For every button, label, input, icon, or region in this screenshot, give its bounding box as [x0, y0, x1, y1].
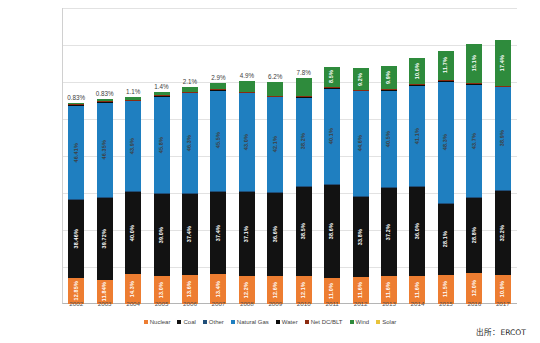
bar-stack[interactable]: 11.6%37.2%40.5%9.9% [381, 66, 397, 304]
bar-column[interactable]: 11.6%36.0%41.1%10.6% [403, 8, 431, 304]
bar-segment-coal[interactable]: 38.5% [296, 187, 312, 276]
bar-segment-other[interactable] [68, 199, 84, 200]
bar-segment-water[interactable] [267, 96, 283, 97]
bar-segment-coal[interactable]: 28.8% [466, 198, 482, 273]
bar-segment-natural-gas[interactable]: 45.5% [210, 90, 226, 191]
bar-stack[interactable]: 11.84%39.72%46.35%0.83% [97, 99, 113, 304]
bar-segment-coal[interactable]: 36.6% [267, 193, 283, 276]
bar-stack[interactable]: 11.0%38.6%40.1%8.5% [324, 67, 340, 304]
bar-segment-water[interactable] [466, 84, 482, 85]
bar-segment-coal[interactable]: 37.4% [210, 191, 226, 274]
bar-segment-water[interactable] [239, 92, 255, 93]
bar-segment-coal[interactable]: 36.0% [409, 187, 425, 276]
bar-segment-wind[interactable]: 0.83% [97, 99, 113, 101]
bar-column[interactable]: 11.6%37.2%40.5%9.9% [375, 8, 403, 304]
bar-segment-coal[interactable]: 37.4% [182, 194, 198, 275]
bar-segment-water[interactable] [296, 97, 312, 98]
bar-stack[interactable]: 11.5%28.1%48.3%11.7% [438, 51, 454, 304]
bar-segment-wind[interactable]: 2.1% [182, 87, 198, 92]
bar-column[interactable]: 11.6%33.8%44.6%9.2% [347, 8, 375, 304]
bar-segment-water[interactable] [97, 102, 113, 103]
bar-segment-coal[interactable]: 37.1% [239, 192, 255, 277]
bar-segment-wind[interactable]: 17.4% [495, 40, 511, 86]
bar-segment-coal[interactable]: 38.6% [324, 185, 340, 278]
bar-segment-natural-gas[interactable]: 38.9% [495, 87, 511, 190]
bar-segment-natural-gas[interactable]: 41.1% [409, 85, 425, 186]
bar-stack[interactable]: 11.6%33.8%44.6%9.2% [353, 68, 369, 304]
bar-segment-coal[interactable]: 40.0% [125, 192, 141, 275]
bar-segment-natural-gas[interactable]: 38.2% [296, 97, 312, 186]
bar-segment-natural-gas[interactable]: 46.3% [182, 93, 198, 193]
bar-segment-natural-gas[interactable]: 43.7% [466, 84, 482, 197]
bar-segment-coal[interactable]: 32.2% [495, 190, 511, 275]
bar-segment-wind[interactable]: 11.7% [438, 51, 454, 81]
bar-stack[interactable]: 10.9%32.2%38.9%17.4% [495, 40, 511, 304]
bar-segment-water[interactable] [409, 85, 425, 86]
bar-segment-natural-gas[interactable]: 44.6% [353, 91, 369, 196]
bar-segment-other[interactable] [267, 192, 283, 193]
bar-column[interactable]: 13.4%37.4%45.5%2.9% [204, 8, 232, 304]
bar-segment-other[interactable] [296, 186, 312, 187]
bar-stack[interactable]: 12.85%38.46%46.41%0.83% [68, 103, 84, 304]
bar-stack[interactable]: 12.6%36.6%42.1%6.2% [267, 82, 283, 304]
bar-stack[interactable]: 12.1%38.5%38.2%7.8% [296, 78, 312, 304]
bar-segment-natural-gas[interactable]: 42.1% [267, 97, 283, 192]
bar-segment-water[interactable] [381, 90, 397, 91]
legend-item-coal[interactable]: Coal [177, 319, 195, 325]
bar-segment-water[interactable] [438, 81, 454, 82]
bar-segment-natural-gas[interactable]: 40.1% [324, 88, 340, 184]
bar-column[interactable]: 11.84%39.72%46.35%0.83% [91, 8, 119, 304]
bar-segment-natural-gas[interactable]: 46.35% [97, 102, 113, 197]
bar-segment-wind[interactable]: 7.8% [296, 78, 312, 96]
bar-segment-other[interactable] [495, 190, 511, 191]
bar-column[interactable]: 12.6%36.6%42.1%6.2% [261, 8, 289, 304]
bar-segment-other[interactable] [97, 197, 113, 198]
bar-stack[interactable]: 12.2%37.1%43.0%4.9% [239, 81, 255, 304]
bar-segment-other[interactable] [154, 193, 170, 194]
bar-segment-other[interactable] [125, 191, 141, 192]
bar-column[interactable]: 12.0%28.8%43.7%15.1% [460, 8, 488, 304]
bar-segment-wind[interactable]: 0.83% [68, 103, 84, 105]
bar-segment-natural-gas[interactable]: 43.9% [125, 101, 141, 192]
bar-segment-wind[interactable]: 1.4% [154, 92, 170, 95]
bar-segment-wind[interactable]: 15.1% [466, 44, 482, 83]
bar-column[interactable]: 14.3%40.0%43.9%1.1% [119, 8, 147, 304]
bar-segment-wind[interactable]: 4.9% [239, 81, 255, 92]
bar-column[interactable]: 12.1%38.5%38.2%7.8% [290, 8, 318, 304]
bar-segment-water[interactable] [210, 90, 226, 91]
bar-segment-coal[interactable]: 39.0% [154, 194, 170, 277]
legend-item-water[interactable]: Water [276, 319, 298, 325]
bar-column[interactable]: 11.5%28.1%48.3%11.7% [432, 8, 460, 304]
bar-stack[interactable]: 13.0%39.0%45.8%1.4% [154, 92, 170, 304]
bar-segment-wind[interactable]: 8.5% [324, 67, 340, 87]
bar-segment-water[interactable] [324, 88, 340, 89]
bar-segment-other[interactable] [438, 203, 454, 204]
bar-segment-natural-gas[interactable]: 43.0% [239, 93, 255, 191]
bar-column[interactable]: 11.0%38.6%40.1%8.5% [318, 8, 346, 304]
legend-item-natural-gas[interactable]: Natural Gas [231, 319, 269, 325]
bar-segment-water[interactable] [353, 90, 369, 91]
bar-segment-wind[interactable]: 9.2% [353, 68, 369, 90]
bar-segment-coal[interactable]: 28.1% [438, 204, 454, 275]
bar-stack[interactable]: 11.6%36.0%41.1%10.6% [409, 58, 425, 304]
bar-stack[interactable]: 12.0%28.8%43.7%15.1% [466, 44, 482, 304]
bar-column[interactable]: 13.6%37.4%46.3%2.1% [176, 8, 204, 304]
legend-item-solar[interactable]: Solar [376, 319, 396, 325]
bar-column[interactable]: 13.0%39.0%45.8%1.4% [148, 8, 176, 304]
bar-segment-other[interactable] [466, 197, 482, 198]
bar-column[interactable]: 10.9%32.2%38.9%17.4% [489, 8, 517, 304]
bar-segment-coal[interactable]: 37.2% [381, 188, 397, 277]
bar-segment-natural-gas[interactable]: 46.41% [68, 105, 84, 199]
bar-segment-other[interactable] [210, 191, 226, 192]
bar-stack[interactable]: 14.3%40.0%43.9%1.1% [125, 97, 141, 304]
legend-item-other[interactable]: Other [203, 319, 224, 325]
bar-segment-water[interactable] [495, 86, 511, 87]
bar-segment-coal[interactable]: 39.72% [97, 198, 113, 280]
bar-segment-coal[interactable]: 33.8% [353, 197, 369, 277]
bar-segment-other[interactable] [353, 196, 369, 197]
bar-segment-wind[interactable]: 2.9% [210, 83, 226, 89]
bar-segment-wind[interactable]: 10.6% [409, 58, 425, 84]
bar-segment-other[interactable] [324, 184, 340, 185]
bar-stack[interactable]: 13.6%37.4%46.3%2.1% [182, 87, 198, 304]
bar-segment-water[interactable] [68, 105, 84, 106]
